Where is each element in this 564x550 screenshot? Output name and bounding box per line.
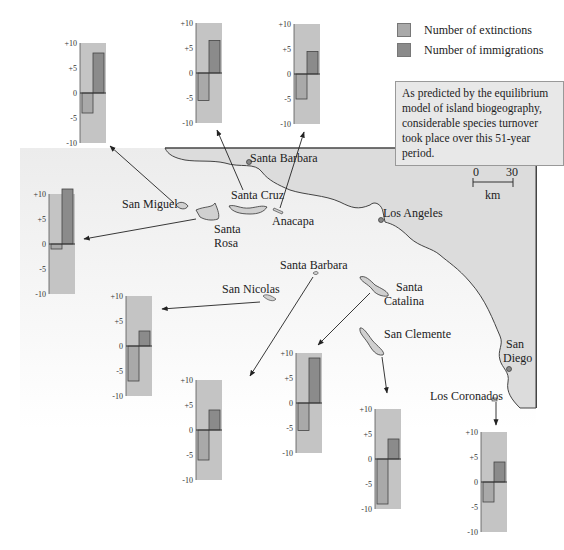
axis-tick: -10 — [467, 528, 478, 537]
axis-tick: -5 — [365, 480, 372, 489]
legend: Number of extinctions Number of immigrat… — [397, 20, 543, 60]
axis-tick: -5 — [471, 503, 478, 512]
axis-tick: +10 — [280, 349, 293, 358]
axis-tick: +5 — [184, 44, 193, 53]
svg-text:San Clemente: San Clemente — [384, 327, 451, 341]
axis-tick: +5 — [284, 374, 293, 383]
axis-tick: -5 — [186, 94, 193, 103]
axis-tick: -10 — [35, 290, 46, 299]
immigrations-bar — [307, 52, 318, 75]
svg-text:Anacapa: Anacapa — [272, 214, 315, 228]
axis-tick: +10 — [33, 190, 46, 199]
extinctions-bar — [296, 74, 307, 99]
immigrations-bar — [494, 462, 505, 482]
immigrations-bar — [209, 410, 220, 430]
axis-tick: +10 — [465, 428, 478, 437]
axis-tick: -5 — [70, 114, 77, 123]
axis-tick: +10 — [359, 405, 372, 414]
svg-text:Los Coronados: Los Coronados — [430, 389, 503, 403]
chart-anacapa: +10+50-5-10 — [278, 20, 320, 129]
axis-tick: 0 — [119, 342, 123, 351]
axis-tick: -10 — [182, 476, 193, 485]
axis-tick: 0 — [189, 69, 193, 78]
svg-text:San Nicolas: San Nicolas — [222, 282, 280, 296]
axis-tick: +10 — [180, 19, 193, 28]
svg-text:San: San — [506, 337, 524, 351]
axis-tick: -10 — [66, 139, 77, 148]
axis-tick: +5 — [282, 45, 291, 54]
immigrations-swatch — [397, 43, 411, 57]
immigrations-bar — [62, 189, 73, 244]
axis-tick: +5 — [184, 401, 193, 410]
axis-tick: 0 — [189, 426, 193, 435]
axis-tick: +10 — [64, 39, 77, 48]
svg-text:Santa: Santa — [214, 222, 241, 236]
legend-immigrations-label: Number of immigrations — [424, 40, 543, 60]
axis-tick: 0 — [289, 399, 293, 408]
legend-extinctions: Number of extinctions — [397, 20, 543, 40]
axis-tick: -10 — [280, 120, 291, 129]
extinctions-bar — [198, 73, 209, 101]
axis-tick: -10 — [361, 505, 372, 514]
svg-text:km: km — [485, 188, 501, 202]
axis-tick: +5 — [37, 215, 46, 224]
axis-tick: -5 — [186, 451, 193, 460]
extinctions-bar — [51, 244, 62, 249]
extinctions-bar — [377, 459, 388, 504]
axis-tick: 0 — [42, 240, 46, 249]
extinctions-bar — [82, 93, 93, 113]
svg-text:Diego: Diego — [503, 351, 532, 365]
axis-tick: 0 — [73, 89, 77, 98]
svg-text:Santa: Santa — [396, 280, 423, 294]
extinctions-bar — [198, 430, 209, 460]
immigrations-bar — [309, 358, 320, 403]
svg-text:Santa Barbara: Santa Barbara — [250, 151, 318, 165]
city-san-diego-dot — [507, 367, 512, 372]
axis-tick: -5 — [39, 265, 46, 274]
immigrations-bar — [388, 439, 399, 459]
immigrations-bar — [93, 53, 104, 93]
svg-text:0: 0 — [473, 165, 479, 179]
legend-extinctions-label: Number of extinctions — [424, 20, 532, 40]
chart-santa-cruz: +10+50-5-10 — [180, 19, 222, 128]
svg-text:30: 30 — [506, 165, 518, 179]
svg-text:Santa Barbara: Santa Barbara — [280, 258, 348, 272]
axis-tick: -10 — [182, 119, 193, 128]
axis-tick: +10 — [180, 376, 193, 385]
axis-tick: 0 — [287, 70, 291, 79]
axis-tick: -5 — [284, 95, 291, 104]
axis-tick: -10 — [282, 449, 293, 458]
immigrations-bar — [209, 41, 220, 74]
extinctions-swatch — [397, 23, 411, 37]
axis-tick: +5 — [363, 430, 372, 439]
axis-tick: +5 — [469, 453, 478, 462]
axis-tick: +10 — [278, 20, 291, 29]
axis-tick: +5 — [114, 317, 123, 326]
svg-text:Rosa: Rosa — [214, 236, 239, 250]
chart-san-miguel: +10+50-5-10 — [64, 39, 106, 148]
legend-immigrations: Number of immigrations — [397, 40, 543, 60]
axis-tick: -5 — [286, 424, 293, 433]
chart-los-coronados: +10+50-5-10 — [465, 428, 507, 537]
axis-tick: -10 — [112, 392, 123, 401]
svg-text:Catalina: Catalina — [384, 294, 425, 308]
extinctions-bar — [483, 482, 494, 502]
svg-text:Santa Cruz: Santa Cruz — [231, 188, 284, 202]
axis-tick: 0 — [368, 455, 372, 464]
axis-tick: -5 — [116, 367, 123, 376]
extinctions-bar — [128, 346, 139, 381]
axis-tick: 0 — [474, 478, 478, 487]
axis-tick: +5 — [68, 64, 77, 73]
axis-tick: +10 — [110, 292, 123, 301]
extinctions-bar — [298, 403, 309, 431]
svg-text:Los Angeles: Los Angeles — [383, 206, 443, 220]
immigrations-bar — [139, 331, 150, 346]
callout-box: As predicted by the equilibrium model of… — [395, 81, 564, 166]
